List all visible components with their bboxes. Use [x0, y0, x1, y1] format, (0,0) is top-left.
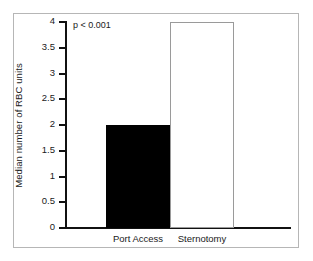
y-tick-label: 4: [0, 15, 55, 26]
bar-chart-figure: Median number of RBC units 00.511.522.53…: [0, 0, 313, 261]
plot-area: [65, 22, 290, 228]
y-tick-label: 0: [0, 221, 55, 232]
bar-port-access: [106, 125, 170, 228]
y-tick-label: 3: [0, 67, 55, 78]
y-tick-label: 1: [0, 170, 55, 181]
y-tick-label: 2: [0, 118, 55, 129]
x-category-label: Port Access: [106, 233, 170, 244]
y-tick-label: 2.5: [0, 92, 55, 103]
p-value-annotation: p < 0.001: [73, 20, 111, 30]
x-category-label: Sternotomy: [170, 233, 234, 244]
y-tick-label: 1.5: [0, 144, 55, 155]
bar-sternotomy: [170, 22, 234, 228]
y-tick-label: 0.5: [0, 195, 55, 206]
y-tick-label: 3.5: [0, 41, 55, 52]
